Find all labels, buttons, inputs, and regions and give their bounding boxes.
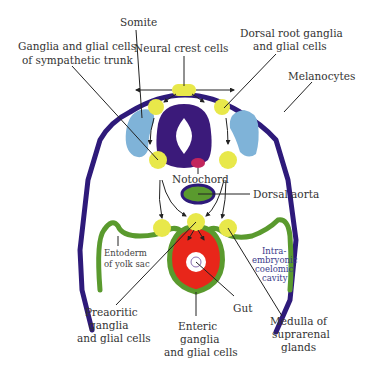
label-notochord: Notochord [172,173,229,185]
notochord [191,158,205,168]
label-preaortic-3: and glial cells [77,332,151,344]
label-medulla-2: suprarenal [272,328,330,340]
label-preaortic-1: Preaoritic [85,306,138,318]
label-enteric-2: ganglia [180,333,219,345]
label-sympathetic-1: Ganglia and glial cells [18,40,136,52]
label-sympathetic-2: of sympathetic trunk [22,54,134,66]
label-medulla-3: glands [281,341,316,353]
label-dorsal-root-1: Dorsal root ganglia [240,27,343,39]
label-somite: Somite [120,16,157,28]
label-melanocytes: Melanocytes [288,70,355,82]
label-medulla-1: Medulla of [270,315,328,327]
somite-right [230,110,259,157]
label-enteric-1: Enteric [178,320,217,332]
label-dorsal-aorta: Dorsal aorta [253,188,319,200]
label-gut: Gut [233,302,253,314]
sympathetic-ganglion-right [219,151,237,169]
somite-left [126,109,155,157]
label-entoderm-1: Entoderm [104,248,147,258]
label-entoderm-2: of yolk sac [104,259,150,269]
label-dorsal-root-2: and glial cells [253,40,327,52]
label-preaortic-2: ganglia [89,319,128,331]
neural-crest-diagram: Somite Ganglia and glial cells of sympat… [0,0,368,376]
dorsal-root-ganglion-right [214,99,230,115]
preaortic-ganglion-left [153,219,171,237]
label-neural-crest: Neural crest cells [134,42,228,54]
dorsal-root-ganglion-left [148,99,164,115]
label-enteric-3: and glial cells [164,346,238,358]
label-coelom-4: cavity [262,273,288,283]
